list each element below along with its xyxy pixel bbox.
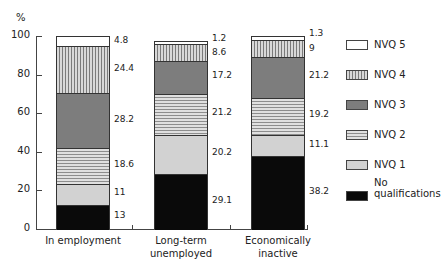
value-label: 20.2 (212, 147, 232, 157)
bar-segment-nvq4 (57, 46, 109, 93)
x-label-economically-inactive: Economically inactive (233, 234, 323, 260)
legend-label-no-qualifications: No qualifications (374, 177, 441, 199)
y-tick (36, 113, 42, 114)
y-tick (36, 229, 42, 230)
value-label: 29.1 (212, 195, 232, 205)
bar-segment-nvq1 (57, 184, 109, 205)
bar-segment-nvq4 (155, 44, 207, 61)
y-tick (36, 36, 42, 37)
bar-segment-nvq2 (57, 148, 109, 184)
value-label: 4.8 (114, 35, 128, 45)
legend-swatch-nvq3 (346, 100, 368, 110)
bar-segment-nvq5 (252, 37, 304, 40)
legend-label-line: No (374, 177, 441, 188)
value-label: 21.2 (309, 70, 329, 80)
value-label: 17.2 (212, 70, 232, 80)
value-label: 18.6 (114, 159, 134, 169)
legend-label-nvq5: NVQ 5 (374, 39, 406, 50)
bar-segment-nvq3 (155, 61, 207, 94)
x-label-line: inactive (233, 247, 323, 260)
value-label: 38.2 (309, 186, 329, 196)
value-label: 1.3 (309, 28, 323, 38)
y-tick-label: 20 (6, 183, 30, 194)
value-label: 28.2 (114, 114, 134, 124)
x-label-long-term-unemployed: Long-term unemployed (136, 234, 226, 260)
y-tick (36, 75, 42, 76)
bar-segment-nvq1 (155, 135, 207, 174)
legend-swatch-nvq1 (346, 160, 368, 170)
legend-label-nvq4: NVQ 4 (374, 69, 406, 80)
value-label: 9 (309, 43, 315, 53)
x-tick (230, 225, 231, 230)
legend-swatch-no-qualifications (346, 191, 368, 201)
bar-segment-nvq1 (252, 135, 304, 156)
y-tick-label: 40 (6, 145, 30, 156)
legend-label-nvq2: NVQ 2 (374, 129, 406, 140)
legend-label-line: qualifications (374, 188, 441, 199)
x-tick (132, 225, 133, 230)
value-label: 21.2 (212, 107, 232, 117)
legend-label-nvq1: NVQ 1 (374, 159, 406, 170)
x-label-line: Economically (233, 234, 323, 247)
y-tick-label: 100 (6, 29, 30, 40)
y-axis-line (36, 36, 37, 230)
value-label: 19.2 (309, 109, 329, 119)
y-axis-unit: % (16, 12, 26, 23)
bar-segment-nvq2 (155, 94, 207, 135)
bar-segment-nvq2 (252, 98, 304, 135)
y-tick-label: 0 (6, 222, 30, 233)
value-label: 11 (114, 187, 125, 197)
legend: NVQ 5 NVQ 4 NVQ 3 NVQ 2 NVQ 1 No qualifi… (346, 36, 444, 206)
value-label: 11.1 (309, 139, 329, 149)
bar-segment-no-qualifications (252, 156, 304, 230)
y-tick-label: 60 (6, 106, 30, 117)
x-label-line: Long-term (136, 234, 226, 247)
bar-segment-nvq3 (57, 93, 109, 147)
bar-segment-nvq4 (252, 40, 304, 57)
bar-segment-no-qualifications (155, 174, 207, 230)
value-label: 1.2 (212, 33, 226, 43)
legend-label-nvq3: NVQ 3 (374, 99, 406, 110)
legend-swatch-nvq4 (346, 70, 368, 80)
stacked-bar (56, 36, 110, 229)
y-tick (36, 190, 42, 191)
value-label: 13 (114, 210, 125, 220)
bar-segment-nvq5 (57, 37, 109, 46)
bar-segment-no-qualifications (57, 205, 109, 230)
x-label-line: unemployed (136, 247, 226, 260)
x-label-line: In employment (38, 234, 128, 247)
stacked-bar (154, 41, 208, 229)
bar-segment-nvq3 (252, 57, 304, 98)
y-tick-label: 80 (6, 68, 30, 79)
stacked-bar (251, 36, 305, 229)
value-label: 8.6 (212, 47, 226, 57)
bar-segment-nvq5 (155, 42, 207, 44)
legend-swatch-nvq2 (346, 130, 368, 140)
y-tick (36, 152, 42, 153)
x-tick (307, 225, 308, 230)
legend-swatch-nvq5 (346, 40, 368, 50)
x-label-in-employment: In employment (38, 234, 128, 247)
value-label: 24.4 (114, 63, 134, 73)
